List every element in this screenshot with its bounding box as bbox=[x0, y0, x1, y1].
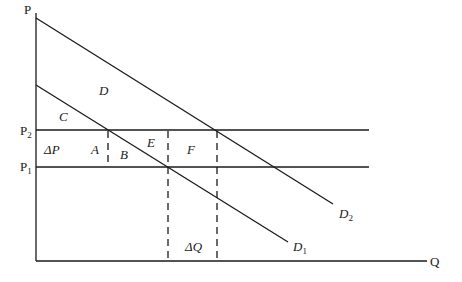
p1-label: P1 bbox=[20, 160, 32, 176]
region-c-label: C bbox=[59, 110, 68, 123]
region-f-label: F bbox=[187, 143, 195, 156]
p2-label: P2 bbox=[20, 124, 32, 140]
price-axis-label: P bbox=[24, 3, 31, 16]
delta-q-label: ΔQ bbox=[185, 240, 202, 253]
demand-shift-diagram: P Q P2 P1 D2 D1 D C ΔP A B E F ΔQ bbox=[0, 0, 462, 282]
demand-curve-d2 bbox=[36, 18, 333, 204]
region-b-label: B bbox=[120, 148, 128, 161]
delta-p-label: ΔP bbox=[44, 143, 60, 156]
d1-label: D1 bbox=[293, 240, 307, 256]
quantity-axis-label: Q bbox=[430, 255, 439, 268]
demand-curve-d1 bbox=[36, 85, 288, 242]
diagram-canvas bbox=[0, 0, 462, 282]
region-e-label: E bbox=[147, 136, 155, 149]
d2-label: D2 bbox=[339, 207, 353, 223]
region-d-label: D bbox=[99, 84, 108, 97]
region-a-label: A bbox=[91, 143, 99, 156]
